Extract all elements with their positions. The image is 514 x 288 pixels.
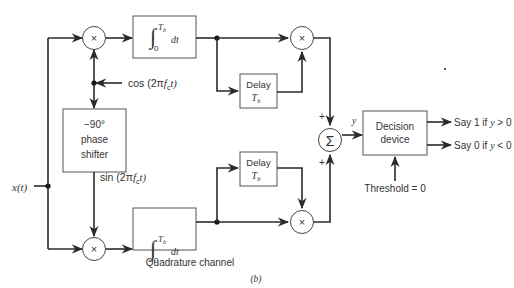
svg-text:shifter: shifter bbox=[81, 149, 109, 160]
svg-text:+: + bbox=[319, 111, 325, 122]
quad-delay-to-mixer-wire bbox=[277, 168, 302, 208]
svg-text:dt: dt bbox=[171, 34, 179, 45]
stray-dot bbox=[444, 68, 446, 70]
delay-to-mixer-wire bbox=[277, 52, 302, 92]
inphase-integrator: ∫ Tb 0 dt bbox=[133, 16, 196, 58]
svg-text:Decision: Decision bbox=[376, 121, 414, 132]
quad-product-mixer: × bbox=[291, 211, 314, 234]
summer: Σ + + y bbox=[319, 111, 358, 168]
threshold-label: Threshold = 0 bbox=[364, 183, 426, 194]
svg-text:dt: dt bbox=[171, 246, 179, 257]
svg-text:−90°: −90° bbox=[84, 119, 105, 130]
multiply-icon: × bbox=[91, 32, 97, 44]
output-0-label: Say 0 if y < 0 bbox=[454, 140, 512, 151]
svg-text:device: device bbox=[381, 134, 410, 145]
quadrature-channel-label: Quadrature channel bbox=[146, 257, 234, 268]
multiply-icon: × bbox=[299, 216, 305, 228]
cos-carrier-label: cos (2πfct) bbox=[128, 77, 177, 91]
sigma-icon: Σ bbox=[326, 133, 335, 149]
svg-text:0: 0 bbox=[154, 44, 159, 53]
output-1-label: Say 1 if y > 0 bbox=[454, 117, 512, 128]
y-label: y bbox=[351, 116, 357, 126]
decision-device: Decision device bbox=[363, 111, 427, 155]
dpsk-receiver-diagram: x(t) × cos (2πfct) ∫ Tb 0 dt bbox=[0, 0, 514, 288]
quad-mixer: × bbox=[83, 238, 106, 261]
svg-text:+: + bbox=[319, 157, 325, 168]
svg-text:Delay: Delay bbox=[246, 157, 271, 168]
svg-text:Delay: Delay bbox=[246, 79, 271, 90]
to-delay-wire bbox=[217, 38, 238, 91]
svg-text:phase: phase bbox=[81, 134, 109, 145]
quad-delay: Delay Tb bbox=[240, 152, 277, 186]
input-label: x(t) bbox=[11, 181, 28, 194]
inphase-product-mixer: × bbox=[291, 27, 314, 50]
inphase-delay: Delay Tb bbox=[240, 74, 277, 108]
figure-caption: (b) bbox=[250, 274, 261, 285]
sin-carrier-label: sin (2πfct) bbox=[100, 171, 146, 185]
phase-shifter: −90° phase shifter bbox=[63, 109, 126, 172]
multiply-icon: × bbox=[91, 243, 97, 255]
inphase-mixer: × bbox=[83, 27, 106, 50]
quad-to-delay-wire bbox=[217, 168, 238, 222]
multiply-icon: × bbox=[299, 32, 305, 44]
